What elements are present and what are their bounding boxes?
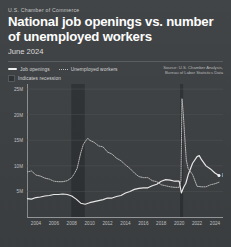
dotted-line-swatch-icon: [59, 69, 68, 70]
x-tick-label: 2016: [138, 221, 148, 226]
source-line-2: Bureau of Labor Statistics Data: [141, 70, 223, 75]
x-tick-label: 2014: [120, 221, 130, 226]
line-swatch-icon: [8, 68, 17, 70]
chart-svg: 8.1M: [27, 84, 223, 217]
x-tick-label: 2012: [102, 221, 112, 226]
legend-label-unemployed-workers: Unemployed workers: [71, 67, 118, 72]
x-tick-label: 2024: [210, 221, 220, 226]
x-tick-label: 2006: [49, 221, 59, 226]
plot-area: 5M10M15M20M25M 8.1M 20042006200820102012…: [0, 84, 231, 239]
legend-label-recession: Indicates recession: [18, 76, 61, 81]
x-tick-label: 2004: [31, 221, 41, 226]
y-tick-label: 5M: [17, 189, 23, 194]
legend-label-job-openings: Job openings: [20, 67, 50, 72]
legend-row-series: Job openings Unemployed workers: [8, 65, 148, 73]
legend-row-recession: Indicates recession: [8, 75, 148, 83]
y-tick-label: 15M: [14, 138, 23, 143]
job-openings-end-label: 8.1M: [222, 172, 223, 178]
chart-title: National job openings vs. number of unem…: [8, 15, 223, 44]
y-tick-label: 20M: [14, 112, 23, 117]
x-tick-label: 2010: [85, 221, 95, 226]
y-tick-label: 25M: [14, 87, 23, 92]
legend-item-unemployed-workers[interactable]: Unemployed workers: [59, 67, 118, 72]
series-line-unemployed-workers: [27, 99, 219, 188]
chart-card: U.S. Chamber of Commerce National job op…: [0, 0, 231, 247]
recession-band-swatch-icon: [8, 75, 15, 82]
series-end-dot: [217, 174, 220, 177]
x-tick-label: 2018: [156, 221, 166, 226]
x-tick-label: 2020: [174, 221, 184, 226]
y-tick-label: 10M: [14, 163, 23, 168]
chart-legend: Job openings Unemployed workers Indicate…: [8, 65, 148, 84]
x-tick-label: 2022: [192, 221, 202, 226]
x-axis-labels: 2004200620082010201220142016201820202022…: [27, 219, 223, 231]
header-divider: [8, 61, 223, 62]
x-tick-label: 2008: [67, 221, 77, 226]
plot-canvas: 8.1M: [27, 84, 223, 217]
legend-item-job-openings[interactable]: Job openings: [8, 67, 50, 72]
chart-subtitle: June 2024: [8, 47, 43, 56]
source-note: Source: U.S. Chamber Analysis, Bureau of…: [141, 65, 223, 75]
x-axis-line: [27, 217, 223, 218]
legend-item-recession[interactable]: Indicates recession: [8, 75, 61, 82]
brand-kicker: U.S. Chamber of Commerce: [8, 7, 79, 13]
y-axis-labels: 5M10M15M20M25M: [0, 84, 25, 217]
